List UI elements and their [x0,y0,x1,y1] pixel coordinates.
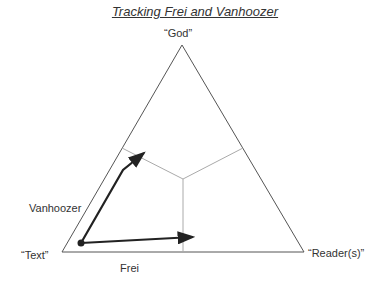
origin-dot [78,240,85,247]
vanhoozer-arrow [81,153,144,243]
frei-arrow [81,237,193,243]
divider-right [183,148,243,179]
vertex-label-god: “God” [164,27,192,39]
triangle-diagram [0,0,390,285]
path-label-frei: Frei [120,262,139,274]
path-label-vanhoozer: Vanhoozer [29,202,81,214]
vertex-label-readers: “Reader(s)” [308,247,364,259]
vertex-label-text: “Text” [21,249,49,261]
